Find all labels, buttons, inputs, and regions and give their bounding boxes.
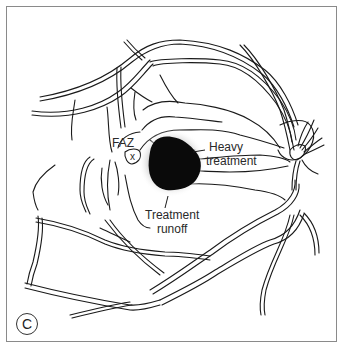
treatment-runoff-label: Treatment runoff bbox=[145, 208, 199, 236]
retina-diagram bbox=[0, 0, 345, 357]
heavy-label-line1: Heavy bbox=[206, 140, 257, 154]
inferior-arcade-vessel bbox=[150, 180, 319, 315]
heavy-label-line2: treatment bbox=[206, 154, 257, 168]
fovea-marker: x bbox=[130, 150, 135, 164]
optic-disc bbox=[278, 120, 324, 190]
faz-label: FAZ bbox=[112, 136, 134, 150]
runoff-leader bbox=[165, 196, 168, 208]
heavy-treatment-label: Heavy treatment bbox=[206, 140, 257, 168]
runoff-label-line1: Treatment bbox=[145, 208, 199, 222]
runoff-label-line2: runoff bbox=[145, 222, 199, 236]
panel-letter-badge: C bbox=[16, 313, 38, 335]
